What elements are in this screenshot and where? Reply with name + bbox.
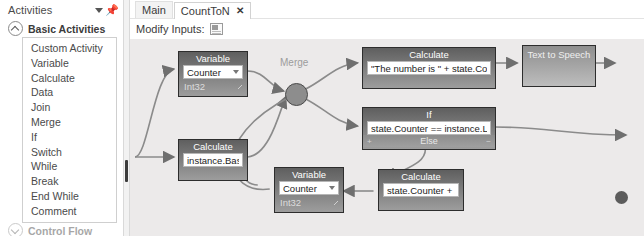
list-item[interactable]: Data [23, 85, 116, 100]
node-title: If [363, 108, 495, 121]
tab-strip: Main CountToN ✕ [130, 0, 644, 19]
sidebar-group-basic-activities[interactable]: Basic Activities [0, 20, 123, 37]
modify-inputs-label: Modify Inputs: [136, 23, 204, 35]
variable-type: Int32 [179, 79, 247, 93]
variable-name-dropdown[interactable]: Counter [279, 181, 339, 195]
variable-type-label: Int32 [184, 81, 205, 93]
expression-value: state.Counter + 1 [387, 185, 455, 196]
expression-field[interactable]: instance.Base [183, 153, 243, 167]
tab-countton[interactable]: CountToN ✕ [174, 2, 251, 19]
tab-label: Main [142, 4, 166, 16]
node-text-to-speech[interactable]: Text to Speech [522, 45, 596, 87]
expression-value: instance.Base [187, 155, 239, 166]
list-item[interactable]: Switch [23, 145, 116, 160]
table-grid-icon[interactable] [210, 23, 223, 35]
tab-main[interactable]: Main [135, 1, 173, 18]
main-panel: Main CountToN ✕ Modify Inputs: [130, 0, 644, 236]
sidebar-header: Activities 📌 [0, 0, 123, 20]
node-variable-bottom[interactable]: Variable Counter Int32 [274, 167, 344, 213]
list-item[interactable]: Calculate [23, 71, 116, 86]
expression-field[interactable]: "The number is " + state.Counter [367, 61, 491, 75]
variable-name-dropdown[interactable]: Counter [183, 65, 243, 79]
node-calculate-base[interactable]: Calculate instance.Base [178, 139, 248, 181]
sidebar-group-label: Control Flow [28, 225, 92, 237]
close-icon[interactable]: ✕ [234, 6, 244, 16]
list-item[interactable]: While [23, 159, 116, 174]
resize-grip[interactable] [237, 85, 243, 89]
node-calculate-message[interactable]: Calculate "The number is " + state.Count… [362, 47, 496, 89]
list-item[interactable]: Variable [23, 56, 116, 71]
expression-value: "The number is " + state.Counter [371, 63, 487, 74]
variable-name-value: Counter [283, 183, 326, 194]
condition-value: state.Counter == instance.Limit [371, 123, 487, 134]
node-calculate-increment[interactable]: Calculate state.Counter + 1 [378, 169, 464, 211]
node-title: Variable [275, 168, 343, 181]
list-item[interactable]: Merge [23, 115, 116, 130]
chevron-down-icon [8, 223, 23, 236]
chevron-down-icon[interactable] [92, 4, 105, 17]
resize-grip[interactable] [333, 201, 339, 205]
add-branch-icon[interactable]: + [367, 137, 372, 146]
sidebar-group-control-flow[interactable]: Control Flow [0, 222, 123, 236]
node-if[interactable]: If state.Counter == instance.Limit + Els… [362, 107, 496, 150]
end-node-dot[interactable] [615, 191, 628, 204]
merge-label: Merge [280, 57, 308, 68]
activities-sidebar: Activities 📌 Basic Activities Custom Act… [0, 0, 124, 236]
expression-field[interactable]: state.Counter + 1 [383, 183, 459, 197]
list-item[interactable]: End While [23, 189, 116, 204]
workflow-canvas[interactable]: Variable Counter Int32 Calculate instanc… [130, 39, 644, 236]
node-title: Calculate [363, 48, 495, 61]
node-merge[interactable] [285, 83, 308, 106]
node-title: Calculate [379, 170, 463, 183]
node-title: Text to Speech [523, 46, 595, 61]
list-item[interactable]: Comment [23, 204, 116, 219]
variable-type: Int32 [275, 195, 343, 209]
chevron-up-icon [8, 21, 23, 36]
else-label: Else [420, 136, 438, 146]
workflow-designer-window: Activities 📌 Basic Activities Custom Act… [0, 0, 644, 236]
list-item[interactable]: Custom Activity [23, 41, 116, 56]
pin-icon[interactable]: 📌 [105, 4, 118, 17]
sidebar-group-label: Basic Activities [28, 23, 105, 35]
sidebar-title: Activities [8, 4, 92, 16]
node-title: Variable [179, 52, 247, 65]
remove-branch-icon[interactable]: − [486, 137, 491, 146]
node-title: Calculate [179, 140, 247, 153]
node-variable-top[interactable]: Variable Counter Int32 [178, 51, 248, 97]
condition-field[interactable]: state.Counter == instance.Limit [367, 121, 491, 135]
if-else-row: + Else − [363, 135, 495, 147]
variable-name-value: Counter [187, 67, 230, 78]
chevron-down-icon [329, 186, 335, 190]
chevron-down-icon [233, 70, 239, 74]
list-item[interactable]: Join [23, 100, 116, 115]
list-item[interactable]: If [23, 130, 116, 145]
list-item[interactable]: Break [23, 174, 116, 189]
variable-type-label: Int32 [280, 197, 301, 209]
toolbar: Modify Inputs: [130, 19, 644, 39]
activities-list: Custom Activity Variable Calculate Data … [22, 37, 117, 223]
tab-label: CountToN [181, 5, 230, 17]
